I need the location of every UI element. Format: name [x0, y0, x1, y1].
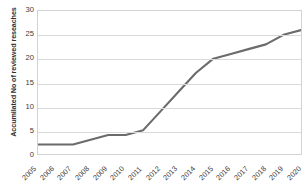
x-tick-label: 2008 — [73, 164, 91, 182]
x-tick-label: 2010 — [108, 164, 126, 182]
plot-area — [37, 10, 302, 155]
x-tick-label: 2019 — [267, 164, 285, 182]
x-tick-label: 2015 — [197, 164, 215, 182]
gridline — [38, 59, 301, 60]
x-axis-tick-labels: 2005200620072008200920102011201220132014… — [37, 156, 302, 193]
y-tick-label: 10 — [14, 103, 34, 111]
x-tick-label: 2017 — [232, 164, 250, 182]
y-tick-label: 30 — [14, 6, 34, 14]
y-tick-label: 25 — [14, 30, 34, 38]
x-tick-label: 2007 — [55, 164, 73, 182]
gridline — [38, 35, 301, 36]
x-tick-label: 2012 — [144, 164, 162, 182]
y-tick-label: 0 — [14, 151, 34, 159]
x-tick-label: 2011 — [126, 165, 144, 183]
y-tick-label: 5 — [14, 127, 34, 135]
x-tick-label: 2020 — [285, 164, 303, 182]
x-tick-label: 2014 — [179, 164, 197, 182]
gridline — [38, 108, 301, 109]
y-tick-label: 15 — [14, 79, 34, 87]
x-tick-label: 2013 — [161, 164, 179, 182]
x-tick-label: 2009 — [91, 164, 109, 182]
x-tick-label: 2006 — [38, 164, 56, 182]
y-tick-label: 20 — [14, 54, 34, 62]
x-tick-label: 2018 — [250, 164, 268, 182]
gridline — [38, 84, 301, 85]
line-chart: Accumilated No of reviewed reseaches 051… — [0, 0, 308, 193]
x-tick-label: 2016 — [214, 164, 232, 182]
gridline — [38, 132, 301, 133]
